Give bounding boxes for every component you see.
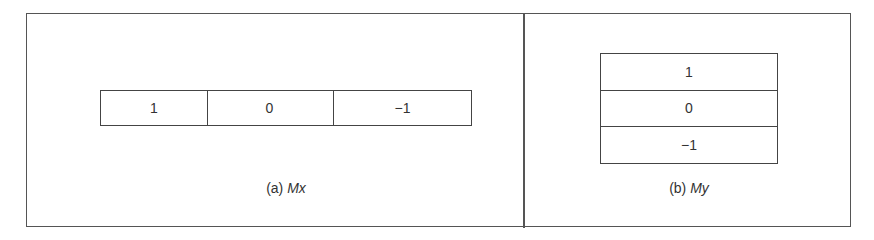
my-caption: (b) My	[669, 180, 709, 196]
mx-cell-1: 0	[206, 90, 334, 126]
mx-caption: (a) Mx	[266, 180, 306, 196]
my-cell-2: −1	[600, 126, 778, 164]
my-caption-prefix: (b)	[669, 180, 686, 196]
mx-caption-prefix: (a)	[266, 180, 283, 196]
my-cell-1: 0	[600, 90, 778, 127]
mx-cell-0: 1	[100, 90, 208, 126]
mx-caption-name: Mx	[287, 180, 306, 196]
my-cell-0: 1	[600, 53, 778, 91]
panel-divider	[523, 13, 525, 228]
my-caption-name: My	[690, 180, 709, 196]
mx-cell-2: −1	[333, 90, 472, 126]
